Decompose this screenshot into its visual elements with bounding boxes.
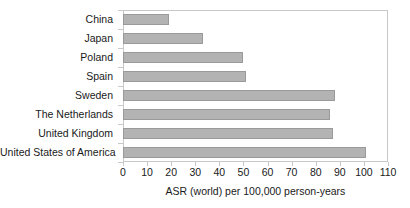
x-axis-tick-label: 10 — [141, 166, 153, 178]
bar-row — [123, 10, 388, 29]
x-axis-tick-label: 50 — [238, 166, 250, 178]
bar-chart: ChinaJapanPolandSpainSwedenThe Netherlan… — [0, 0, 410, 208]
bar-row — [123, 105, 388, 124]
bar-row — [123, 67, 388, 86]
bar-row — [123, 48, 388, 67]
bar-row — [123, 86, 388, 105]
y-axis-label: Spain — [0, 67, 118, 86]
x-axis-tick-label: 100 — [355, 166, 373, 178]
x-axis-tick-label: 30 — [189, 166, 201, 178]
x-axis-tick-label: 0 — [120, 166, 126, 178]
bar — [123, 90, 335, 101]
bar — [123, 33, 203, 44]
y-axis-label: Japan — [0, 29, 118, 48]
bar — [123, 14, 169, 25]
x-axis-tick-label: 60 — [262, 166, 274, 178]
x-axis-tick-label: 110 — [380, 166, 397, 178]
y-axis-label: The Netherlands — [0, 105, 118, 124]
x-axis-tick-label: 80 — [310, 166, 322, 178]
bar — [123, 128, 333, 139]
y-axis-label: United States of America — [0, 143, 118, 162]
y-axis-label: Poland — [0, 48, 118, 67]
x-axis-tick-label: 90 — [334, 166, 346, 178]
bar — [123, 147, 366, 158]
x-axis-tick-label: 20 — [165, 166, 177, 178]
y-axis-label: China — [0, 10, 118, 29]
x-axis-tick-label: 40 — [214, 166, 226, 178]
x-axis-tick-labels: 0102030405060708090100110 — [123, 166, 388, 180]
bar — [123, 109, 330, 120]
bar-row — [123, 124, 388, 143]
y-axis-labels: ChinaJapanPolandSpainSwedenThe Netherlan… — [0, 10, 118, 162]
bar-row — [123, 143, 388, 162]
y-axis-label: United Kingdom — [0, 124, 118, 143]
x-axis-tick-label: 70 — [286, 166, 298, 178]
x-axis-title: ASR (world) per 100,000 person-years — [123, 185, 388, 197]
bars-container — [123, 10, 388, 162]
bar — [123, 52, 243, 63]
bar-row — [123, 29, 388, 48]
bar — [123, 71, 246, 82]
y-axis-label: Sweden — [0, 86, 118, 105]
